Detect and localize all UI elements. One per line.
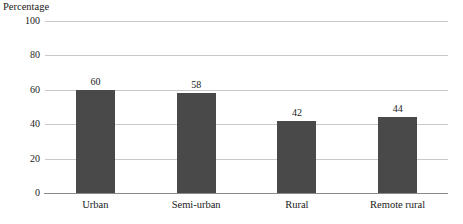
y-axis-tick-labels: 020406080100 xyxy=(0,21,40,193)
x-axis-category-labels: UrbanSemi-urbanRuralRemote rural xyxy=(45,198,448,214)
bar-value-label: 42 xyxy=(263,107,330,118)
bar-series: 60584244 xyxy=(45,21,448,193)
bar-value-label: 44 xyxy=(364,103,431,114)
x-axis-category-label: Remote rural xyxy=(347,198,448,211)
y-axis-tick-label: 40 xyxy=(0,119,40,129)
bar-chart: Percentage 020406080100 60584244 UrbanSe… xyxy=(0,0,463,224)
bar-slot: 42 xyxy=(277,21,316,193)
bar[interactable] xyxy=(76,90,115,193)
bar[interactable] xyxy=(277,121,316,193)
y-axis-title: Percentage xyxy=(3,0,49,13)
plot-area: 60584244 xyxy=(45,21,448,193)
bar-slot: 60 xyxy=(76,21,115,193)
y-axis-tick-label: 0 xyxy=(0,188,40,198)
bar-slot: 58 xyxy=(177,21,216,193)
y-axis-tick-label: 20 xyxy=(0,154,40,164)
bar[interactable] xyxy=(378,117,417,193)
y-axis-tick-label: 80 xyxy=(0,50,40,60)
x-axis-category-label: Urban xyxy=(45,198,146,211)
y-axis-tick-label: 100 xyxy=(0,16,40,26)
axis-baseline xyxy=(44,193,448,194)
bar-value-label: 58 xyxy=(163,79,230,90)
x-axis-category-label: Rural xyxy=(247,198,348,211)
bar-slot: 44 xyxy=(378,21,417,193)
bar-value-label: 60 xyxy=(62,76,129,87)
bar[interactable] xyxy=(177,93,216,193)
x-axis-category-label: Semi-urban xyxy=(146,198,247,211)
y-axis-tick-label: 60 xyxy=(0,85,40,95)
